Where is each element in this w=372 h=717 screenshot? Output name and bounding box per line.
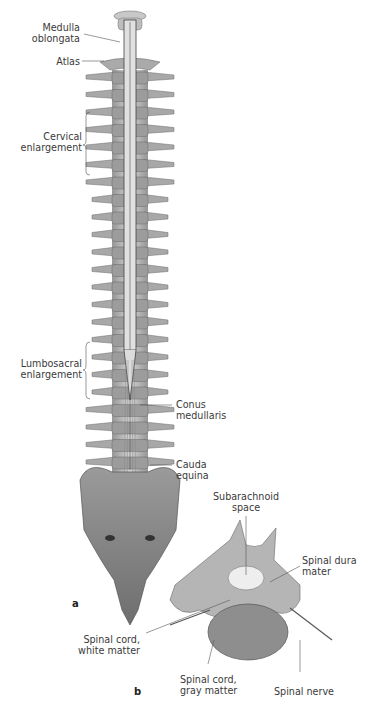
label-spinal-dura-mater: Spinal dura mater: [302, 555, 357, 577]
panel-letter-b: b: [134, 686, 141, 697]
label-cervical-enlargement: Cervical enlargement: [4, 131, 82, 153]
label-lumbosacral-enlargement: Lumbosacral enlargement: [4, 358, 82, 380]
label-spinal-nerve: Spinal nerve: [274, 686, 334, 697]
label-gray-matter: Spinal cord, gray matter: [180, 674, 237, 696]
label-conus-medullaris: Conus medullaris: [176, 399, 226, 421]
vertebra-cross-section: [170, 520, 332, 660]
label-subarachnoid-space: Subarachnoid space: [206, 491, 286, 513]
vertebral-column: [80, 11, 180, 625]
label-atlas: Atlas: [18, 56, 80, 67]
label-cauda-equina: Cauda equina: [176, 459, 209, 481]
label-medulla-oblongata: Medulla oblongata: [18, 22, 80, 44]
label-white-matter: Spinal cord, white matter: [60, 634, 140, 656]
panel-letter-a: a: [72, 598, 79, 609]
